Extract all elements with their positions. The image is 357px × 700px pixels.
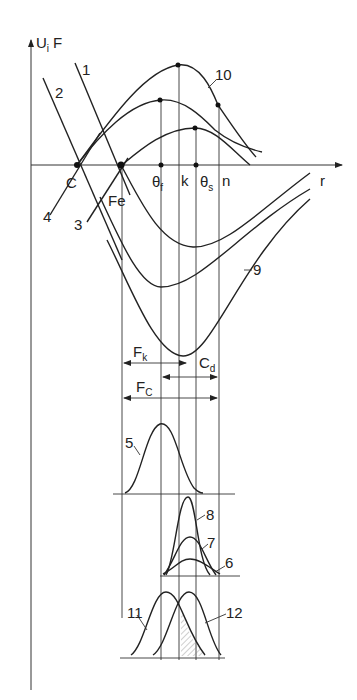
- label-cd: Cd: [199, 354, 215, 374]
- label-fe: Fe: [108, 192, 126, 209]
- label-curve-11: 11: [127, 604, 143, 621]
- y-axis-label: UiF: [36, 34, 62, 54]
- label-theta-f: θf: [152, 173, 163, 193]
- label-curve-10: 10: [215, 66, 232, 83]
- label-curve-3: 3: [74, 216, 82, 233]
- leader-12: [205, 614, 226, 623]
- label-curve-5: 5: [125, 434, 133, 451]
- label-c: C: [66, 174, 77, 191]
- label-theta-s: θs: [200, 173, 213, 193]
- label-n: n: [222, 172, 230, 189]
- peak-middle: [158, 98, 163, 103]
- line-2: [43, 78, 122, 260]
- label-curve-7: 7: [207, 534, 215, 551]
- curve-upper-lower: [122, 128, 250, 165]
- label-curve-6: 6: [225, 554, 233, 571]
- label-fc: FC: [136, 378, 152, 398]
- label-k: k: [181, 172, 189, 189]
- r-axis-label: r: [320, 172, 325, 189]
- curve-9: [107, 199, 310, 356]
- label-curve-9: 9: [253, 261, 261, 278]
- peak-lower: [193, 126, 198, 131]
- curve-5: [125, 424, 203, 493]
- curve-well-middle: [100, 189, 310, 287]
- leader-8: [197, 515, 205, 520]
- label-curve-8: 8: [206, 506, 214, 523]
- point-theta-s: [194, 163, 199, 168]
- point-c: [74, 162, 80, 168]
- curve-well-shallow: [121, 165, 310, 247]
- line-1: [75, 63, 130, 195]
- label-curve-1: 1: [82, 61, 90, 78]
- leader-5: [134, 446, 140, 455]
- label-fk: Fk: [133, 343, 148, 363]
- point-fe: [118, 162, 125, 169]
- point-n-on-curve-10: [216, 103, 221, 108]
- potential-energy-diagram: UiF r C Fe θf k θs n 1 2 3 4 10 9 Fk Cd …: [0, 0, 357, 700]
- label-curve-2: 2: [55, 84, 63, 101]
- leader-6: [215, 566, 225, 572]
- peak-curve-10: [176, 63, 181, 68]
- label-curve-4: 4: [43, 208, 51, 225]
- label-curve-12: 12: [226, 604, 243, 621]
- point-theta-f: [159, 163, 164, 168]
